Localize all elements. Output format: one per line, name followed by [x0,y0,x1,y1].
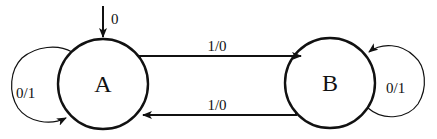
self-loop-b-label: 0/1 [386,80,405,96]
state-diagram: 0 A B 0/1 1/0 1/0 0/1 [0,0,437,139]
transition-a-to-b: 1/0 [140,38,301,58]
self-loop-a-label: 0/1 [16,85,35,101]
state-b-label: B [322,70,338,96]
transition-a-to-b-label: 1/0 [207,38,226,54]
state-b: B [285,38,375,128]
transition-b-to-a-label: 1/0 [207,97,226,113]
initial-arrow: 0 [103,6,119,37]
self-loop-a: 0/1 [12,47,72,122]
initial-arrow-label: 0 [111,11,119,27]
state-a-label: A [94,71,112,97]
state-a: A [58,39,148,129]
self-loop-b: 0/1 [368,46,424,117]
transition-b-to-a: 1/0 [143,97,296,115]
